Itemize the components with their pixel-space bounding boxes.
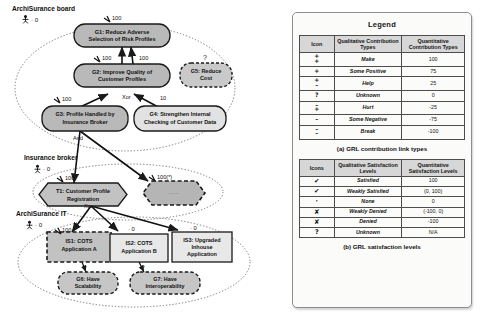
row-quantitative: 0 — [402, 197, 465, 207]
link-label-xor-it: Xor — [84, 203, 93, 209]
node-g3-label-1: G3: Profile Handled by — [56, 111, 116, 117]
actor-satisfaction-broker: · 0 — [43, 165, 51, 172]
legend-panel: Legend Icon Qualitative Contribution Typ… — [292, 12, 472, 308]
contribution-rows: ++ Make 100 + Some Positive 75 +– Help 2… — [300, 53, 465, 140]
node-g4[interactable]: G4: Strengthen Internal Checking of Cust… — [134, 106, 226, 131]
row-qualitative: Some Positive — [334, 67, 402, 77]
node-t1-label-2: Registration — [67, 196, 100, 202]
node-is2-label-1: IS2: COTS — [126, 240, 153, 246]
row-qualitative: Some Negative — [334, 115, 402, 125]
row-qualitative: Hurt — [334, 101, 402, 115]
row-qualitative: Denied — [334, 217, 402, 227]
node-g1-label-2: Selection of Risk Profiles — [88, 36, 155, 42]
hurt-icon: –+ — [300, 101, 335, 115]
svg-text:100: 100 — [62, 96, 71, 102]
unknown-question-icon: ? — [300, 228, 335, 238]
node-g1[interactable]: G1: Reduce Adverse Selection of Risk Pro… — [74, 24, 170, 47]
node-g6-label-2: Scalability — [75, 283, 102, 289]
link-g2-g1-b — [131, 47, 133, 64]
weakly-satisfied-check-icon: ✔ — [300, 187, 335, 197]
header-quantitative: Quantitative Contribution Types — [402, 36, 465, 53]
row-quantitative: N/A — [402, 228, 465, 238]
node-g1-label-1: G1: Reduce Adverse — [95, 29, 150, 35]
header-icon: Icon — [300, 36, 335, 53]
row-quantitative: -25 — [402, 101, 465, 115]
satisfaction-mark-g6: ? — [83, 264, 87, 271]
satisfaction-mark-g1: 100 — [104, 15, 121, 22]
table-row: +– Help 25 — [300, 77, 465, 91]
denied-icon: ✘ — [300, 217, 335, 227]
row-qualitative: None — [334, 197, 402, 207]
actor-satisfaction-board: · 0 — [31, 16, 39, 23]
satisfaction-mark-g5: ? — [203, 54, 207, 61]
help-icon: +– — [300, 77, 335, 91]
node-is3-label-1: IS3: Upgraded — [183, 237, 220, 243]
satisfaction-mark-g3: 100 — [54, 96, 71, 103]
node-t1-label-1: T1: Customer Profile — [56, 188, 110, 194]
link-and-t2 — [80, 131, 148, 181]
table-row: ✘ Weakly Denied (-100, 0) — [300, 207, 465, 217]
satisfaction-table-caption: (b) GRL satisfaction levels — [299, 243, 465, 250]
row-qualitative: Unknown — [334, 228, 402, 238]
row-qualitative: Break — [334, 125, 402, 139]
row-quantitative: 100 — [402, 176, 465, 186]
node-g3[interactable]: G3: Profile Handled by Insurance Broker — [42, 106, 128, 131]
table-row: ? Unknown 0 — [300, 91, 465, 101]
node-g5-label-2: Cost — [200, 75, 212, 81]
actor-satisfaction-it: · 0 — [35, 221, 43, 228]
some-negative-icon: – — [300, 115, 335, 125]
table-row: –+ Hurt -25 — [300, 101, 465, 115]
node-g7-label-1: G7: Have — [153, 276, 176, 282]
some-positive-icon: + — [300, 67, 335, 77]
actor-icon-it — [27, 221, 33, 230]
node-is2[interactable]: IS2: COTS Application B — [110, 234, 168, 262]
node-g4-label-2: Checking of Customer Data — [144, 119, 217, 125]
node-g2-label-2: Customer Profiles — [98, 76, 146, 82]
node-is2-label-2: Application B — [121, 248, 156, 254]
contribution-types-table: Icon Qualitative Contribution Types Quan… — [299, 35, 465, 140]
row-quantitative: 0 — [402, 91, 465, 101]
node-g5-label-1: G5: Reduce — [191, 68, 222, 74]
node-g7[interactable]: G7: Have Interoperability — [130, 272, 200, 294]
node-is3[interactable]: IS3: Upgraded Inhouse Application — [172, 232, 232, 262]
node-is1[interactable]: IS1: COTS Application A — [47, 232, 111, 262]
node-is1-label-1: IS1: COTS — [66, 238, 93, 244]
actor-icon-broker — [35, 165, 41, 174]
node-g3-label-2: Insurance Broker — [62, 119, 108, 125]
header-qualitative: Qualitative Satisfaction Levels — [334, 159, 402, 176]
node-t1[interactable]: T1: Customer Profile Registration — [39, 183, 127, 206]
table-row: · None 0 — [300, 197, 465, 207]
node-g5[interactable]: G5: Reduce Cost — [180, 63, 232, 87]
satisfaction-mark-is2: · 0 — [128, 226, 135, 232]
table-row: ✔ Weakly Satisfied (0, 100) — [300, 187, 465, 197]
svg-text:100: 100 — [112, 15, 121, 21]
link-label-xor-g2: Xor — [122, 94, 131, 100]
table-row: ✔ Satisfied 100 — [300, 176, 465, 186]
node-g6-label-1: G6: Have — [76, 276, 99, 282]
satisfaction-rows: ✔ Satisfied 100 ✔ Weakly Satisfied (0, 1… — [300, 176, 465, 238]
row-qualitative: Unknown — [334, 91, 402, 101]
unknown-icon: ? — [300, 91, 335, 101]
node-g6[interactable]: G6: Have Scalability — [58, 272, 118, 294]
header-qualitative: Qualitative Contribution Types — [334, 36, 402, 53]
node-t2[interactable]: ······ — [143, 181, 205, 205]
link-label-and: And — [73, 135, 83, 141]
table-header-row: Icons Qualitative Satisfaction Levels Qu… — [300, 159, 465, 176]
row-qualitative: Make — [334, 53, 402, 67]
break-icon: –– — [300, 125, 335, 139]
row-quantitative: -100 — [402, 217, 465, 227]
row-quantitative: 25 — [402, 77, 465, 91]
grl-model-figure: ArchiSurance board · 0 Insurance broker … — [0, 0, 480, 320]
row-qualitative: Weakly Satisfied — [334, 187, 402, 197]
node-g2-label-1: G2: Improve Quality of — [92, 69, 152, 75]
satisfaction-mark-g7: ? — [141, 264, 145, 271]
node-g4-label-1: G4: Strengthen Internal — [149, 111, 211, 117]
legend-title: Legend — [299, 20, 465, 29]
contribution-value-g4-g2: 10 — [160, 95, 166, 101]
row-qualitative: Weakly Denied — [334, 207, 402, 217]
table-row: – Some Negative -75 — [300, 115, 465, 125]
node-is1-label-2: Application A — [61, 246, 96, 252]
node-g2[interactable]: G2: Improve Quality of Customer Profiles — [74, 64, 170, 87]
table-header-row: Icon Qualitative Contribution Types Quan… — [300, 36, 465, 53]
contribution-value-g2-g1: 100 — [139, 55, 148, 61]
